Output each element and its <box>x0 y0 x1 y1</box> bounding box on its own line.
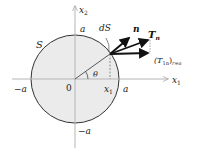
tick-pos-x: a <box>123 84 128 94</box>
component-vector-label: (T1n)r=a <box>154 56 182 66</box>
tick-pos-y: a <box>80 24 85 34</box>
traction-vector-label: Tn <box>148 29 160 41</box>
surface-label: S <box>36 39 43 50</box>
normal-vector-label: n <box>133 24 140 34</box>
origin-label: 0 <box>66 83 72 93</box>
x2-axis-label: x2 <box>79 5 88 16</box>
theta-label: θ <box>93 70 98 79</box>
ds-label: dS <box>99 23 111 33</box>
component-vector-arrow <box>110 53 148 54</box>
x1-axis-label: x1 <box>172 75 181 86</box>
traction-vector-arrow <box>110 40 148 54</box>
stress-circle-diagram: S dS θ 0 x2 x1 a −a −a a x1 n Tn (T1n)r=… <box>0 0 197 154</box>
normal-vector-arrow <box>110 38 129 54</box>
tick-neg-x: −a <box>14 84 27 94</box>
tick-neg-y: −a <box>78 126 91 136</box>
